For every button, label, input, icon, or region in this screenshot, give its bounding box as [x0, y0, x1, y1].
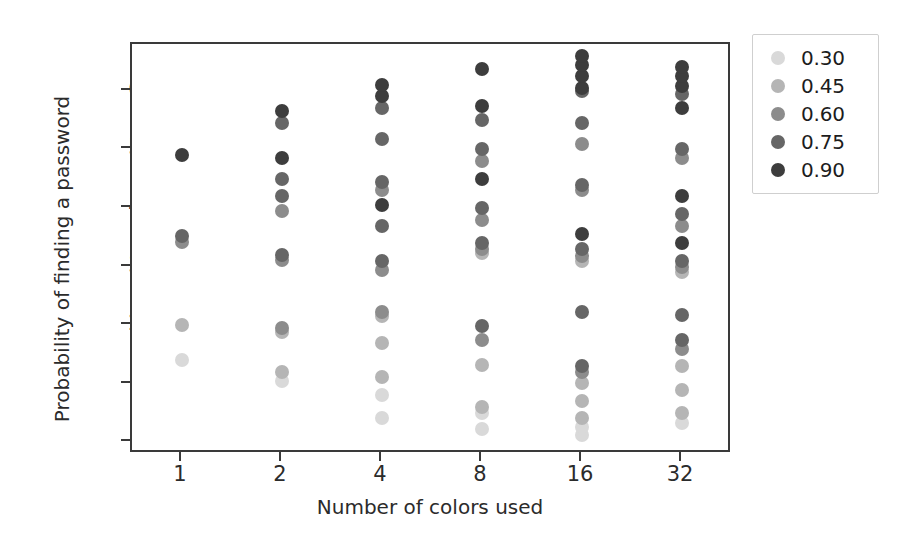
scatter-point: [375, 254, 389, 268]
x-tick-mark: [379, 452, 381, 461]
x-axis-label: Number of colors used: [130, 495, 730, 519]
legend: 0.300.450.600.750.90: [752, 34, 879, 194]
scatter-point: [675, 189, 689, 203]
x-tick-mark: [179, 452, 181, 461]
scatter-point: [375, 198, 389, 212]
scatter-point: [575, 49, 589, 63]
scatter-point: [475, 422, 489, 436]
scatter-point: [475, 319, 489, 333]
scatter-point: [275, 151, 289, 165]
scatter-point: [175, 353, 189, 367]
legend-swatch-circle-icon: [771, 163, 785, 177]
figure-canvas: Probability of finding a password 0%10%2…: [0, 0, 919, 542]
scatter-point: [575, 227, 589, 241]
scatter-point: [275, 248, 289, 262]
scatter-point: [375, 175, 389, 189]
x-tick-mark: [679, 452, 681, 461]
scatter-point: [575, 359, 589, 373]
legend-item-label: 0.75: [801, 130, 845, 154]
scatter-point: [675, 308, 689, 322]
legend-item[interactable]: 0.60: [759, 100, 872, 128]
scatter-point: [575, 394, 589, 408]
legend-item-label: 0.45: [801, 74, 845, 98]
scatter-point: [275, 321, 289, 335]
scatter-point: [475, 62, 489, 76]
scatter-point: [375, 132, 389, 146]
y-tick-mark: [121, 88, 130, 90]
scatter-point: [375, 219, 389, 233]
scatter-point: [375, 305, 389, 319]
scatter-point: [275, 189, 289, 203]
scatter-point: [575, 137, 589, 151]
legend-swatch-circle-icon: [771, 51, 785, 65]
scatter-point: [375, 388, 389, 402]
plot-area: [130, 42, 730, 452]
scatter-point: [375, 78, 389, 92]
y-axis-label: Probability of finding a password: [50, 49, 74, 469]
legend-item[interactable]: 0.45: [759, 72, 872, 100]
scatter-point: [375, 101, 389, 115]
y-tick-mark: [121, 205, 130, 207]
scatter-point: [475, 172, 489, 186]
legend-item[interactable]: 0.75: [759, 128, 872, 156]
scatter-point: [375, 336, 389, 350]
scatter-point: [275, 365, 289, 379]
x-tick-label: 1: [140, 462, 220, 486]
scatter-point: [475, 99, 489, 113]
scatter-point: [675, 236, 689, 250]
y-tick-mark: [121, 381, 130, 383]
x-tick-label: 2: [240, 462, 320, 486]
y-tick-mark: [121, 439, 130, 441]
scatter-point: [575, 242, 589, 256]
legend-swatch-circle-icon: [771, 79, 785, 93]
scatter-point: [275, 104, 289, 118]
legend-item[interactable]: 0.90: [759, 156, 872, 184]
x-tick-label: 8: [440, 462, 520, 486]
scatter-point: [675, 254, 689, 268]
x-tick-mark: [579, 452, 581, 461]
y-tick-mark: [121, 264, 130, 266]
scatter-point: [475, 113, 489, 127]
x-tick-label: 16: [540, 462, 620, 486]
legend-item[interactable]: 0.30: [759, 44, 872, 72]
legend-item-label: 0.60: [801, 102, 845, 126]
scatter-point: [675, 60, 689, 74]
scatter-point: [375, 411, 389, 425]
scatter-point: [475, 201, 489, 215]
scatter-point: [175, 148, 189, 162]
scatter-point: [475, 142, 489, 156]
scatter-point: [675, 142, 689, 156]
scatter-point: [275, 204, 289, 218]
scatter-point: [675, 333, 689, 347]
scatter-point: [175, 318, 189, 332]
legend-item-label: 0.90: [801, 158, 845, 182]
scatter-point: [575, 178, 589, 192]
scatter-point: [175, 229, 189, 243]
x-tick-mark: [279, 452, 281, 461]
scatter-point: [575, 305, 589, 319]
x-tick-mark: [479, 452, 481, 461]
scatter-point: [475, 358, 489, 372]
scatter-point: [675, 207, 689, 221]
scatter-point: [475, 333, 489, 347]
scatter-points-layer: [132, 44, 728, 450]
scatter-point: [475, 400, 489, 414]
y-tick-mark: [121, 322, 130, 324]
legend-swatch-circle-icon: [771, 135, 785, 149]
scatter-point: [275, 172, 289, 186]
scatter-point: [675, 101, 689, 115]
scatter-point: [575, 116, 589, 130]
scatter-point: [675, 359, 689, 373]
scatter-point: [675, 406, 689, 420]
scatter-point: [675, 383, 689, 397]
legend-item-label: 0.30: [801, 46, 845, 70]
legend-swatch-circle-icon: [771, 107, 785, 121]
scatter-point: [375, 370, 389, 384]
x-tick-label: 32: [640, 462, 720, 486]
x-tick-label: 4: [340, 462, 420, 486]
scatter-point: [575, 411, 589, 425]
scatter-point: [475, 236, 489, 250]
y-tick-mark: [121, 146, 130, 148]
